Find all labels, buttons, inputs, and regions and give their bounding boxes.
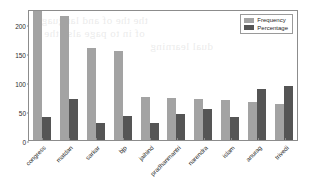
x-axis-labels: congressmatdansarkarbjpjaihindpradhanman… [28, 141, 298, 189]
x-axis-tick-label: anurag [244, 144, 263, 163]
bar-percentage[interactable] [176, 114, 185, 140]
bar-percentage[interactable] [257, 89, 266, 140]
plot-axes-frame: 050100150200 Frequency Percentage [28, 10, 298, 141]
bar-frequency[interactable] [194, 99, 203, 140]
x-axis-tick-mark [285, 138, 286, 141]
x-axis-tick-mark [42, 138, 43, 141]
bar-group [163, 11, 190, 140]
bar-percentage[interactable] [150, 123, 159, 140]
x-axis-tick-label: jaihind [137, 144, 155, 162]
bar-percentage[interactable] [96, 123, 105, 140]
x-axis-tick-mark [177, 138, 178, 141]
bar-percentage[interactable] [123, 116, 132, 140]
legend-entry-frequency[interactable]: Frequency [244, 17, 288, 23]
bar-percentage[interactable] [69, 99, 78, 140]
bar-percentage[interactable] [203, 109, 212, 140]
bar-frequency[interactable] [248, 102, 257, 140]
bar-group [109, 11, 136, 140]
legend-label-percentage: Percentage [257, 25, 288, 31]
bar-group [190, 11, 217, 140]
bar-frequency[interactable] [167, 98, 176, 141]
x-axis-tick-label: islam [220, 144, 235, 159]
x-axis-tick-label: trivedi [273, 144, 290, 161]
bar-group [56, 11, 83, 140]
bar-group [83, 11, 110, 140]
bar-frequency[interactable] [60, 16, 69, 140]
x-axis-tick-label: bjp [117, 144, 128, 155]
x-axis-tick-mark [123, 138, 124, 141]
bar-percentage[interactable] [230, 117, 239, 140]
x-axis-tick-label: congress [24, 144, 47, 167]
bar-chart-figure: 050100150200 Frequency Percentage congre… [0, 0, 312, 190]
bar-frequency[interactable] [141, 97, 150, 140]
bar-frequency[interactable] [221, 100, 230, 140]
bar-frequency[interactable] [33, 11, 42, 140]
x-axis-tick-mark [204, 138, 205, 141]
legend-label-frequency: Frequency [257, 17, 285, 23]
bar-frequency[interactable] [114, 51, 123, 140]
x-axis-tick-mark [96, 138, 97, 141]
bar-group [29, 11, 56, 140]
bar-frequency[interactable] [275, 104, 284, 140]
bar-group [136, 11, 163, 140]
x-axis-tick-label: narendra [186, 144, 208, 166]
bar-percentage[interactable] [42, 117, 51, 140]
legend-swatch-percentage [244, 25, 254, 30]
x-axis-tick-label: matdan [54, 144, 74, 164]
bar-frequency[interactable] [87, 48, 96, 140]
x-axis-tick-mark [69, 138, 70, 141]
x-axis-tick-mark [150, 138, 151, 141]
legend-entry-percentage[interactable]: Percentage [244, 25, 288, 31]
x-axis-tick-label: sarkar [83, 144, 100, 161]
legend-swatch-frequency [244, 18, 254, 23]
bar-percentage[interactable] [284, 86, 293, 140]
x-axis-tick-mark [231, 138, 232, 141]
x-axis-tick-mark [258, 138, 259, 141]
chart-legend[interactable]: Frequency Percentage [240, 14, 293, 34]
